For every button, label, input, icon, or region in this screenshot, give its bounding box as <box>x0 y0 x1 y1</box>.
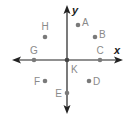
point-marker-icon <box>76 23 81 28</box>
point-label: B <box>99 29 106 40</box>
point-marker-icon <box>65 58 70 63</box>
point-marker-icon <box>32 58 37 63</box>
point-h: H <box>41 21 48 39</box>
point-marker-icon <box>93 35 98 40</box>
point-label: F <box>34 76 40 87</box>
points: ABCDEFGHK <box>30 17 106 99</box>
point-label: A <box>82 17 89 28</box>
point-marker-icon <box>43 35 48 40</box>
point-marker-icon <box>65 91 70 96</box>
point-marker-icon <box>43 79 48 84</box>
point-f: F <box>34 76 47 87</box>
point-label: G <box>30 45 38 56</box>
point-d: D <box>87 76 101 87</box>
y-axis-label: y <box>71 4 79 16</box>
point-label: C <box>96 45 103 56</box>
point-label: D <box>93 76 100 87</box>
point-a: A <box>76 17 89 28</box>
point-label: H <box>41 21 48 32</box>
point-marker-icon <box>87 79 92 84</box>
point-b: B <box>93 29 106 40</box>
point-label: K <box>71 64 78 75</box>
coordinate-plane: xy ABCDEFGHK <box>0 0 130 125</box>
point-label: E <box>55 88 62 99</box>
point-marker-icon <box>98 58 103 63</box>
x-axis-label: x <box>113 44 121 56</box>
